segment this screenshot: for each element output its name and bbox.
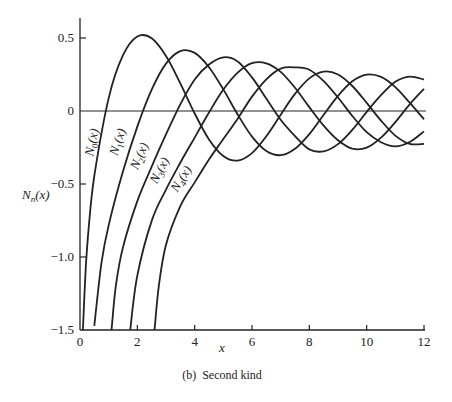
curves: [83, 35, 424, 330]
x-tick-label: 4: [191, 334, 198, 349]
y-tick-label: −0.5: [50, 176, 74, 191]
y-tick-label: 0.5: [58, 30, 74, 45]
y-tick-label: 0: [68, 103, 75, 118]
curve-labels: N0(x)N1(x)N2(x)N3(x)N4(x): [81, 126, 196, 196]
axes: 0.50−0.5−1.0−1.5024681012: [50, 18, 430, 349]
bessel-second-kind-chart: 0.50−0.5−1.0−1.5024681012 N0(x)N1(x)N2(x…: [0, 0, 452, 402]
x-tick-label: 6: [249, 334, 256, 349]
figure-caption: (b) Second kind: [182, 368, 262, 382]
x-tick-label: 8: [306, 334, 313, 349]
y-tick-label: −1.5: [50, 322, 74, 337]
x-tick-label: 12: [418, 334, 431, 349]
curve-label-n4: N4(x): [167, 163, 197, 196]
curve-label-n1: N1(x): [106, 126, 131, 158]
curve-n1: [94, 50, 424, 326]
x-tick-label: 2: [134, 334, 141, 349]
x-tick-label: 10: [360, 334, 373, 349]
y-axis-title: Nn(x): [21, 187, 50, 204]
curve-n4: [155, 67, 425, 330]
x-tick-label: 0: [77, 334, 84, 349]
y-tick-label: −1.0: [50, 249, 74, 264]
curve-n3: [130, 62, 424, 330]
x-axis-title: x: [218, 340, 225, 355]
